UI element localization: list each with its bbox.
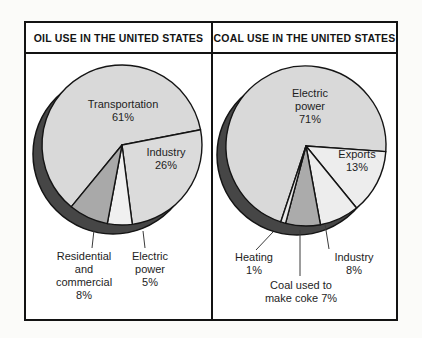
leader-line-heating [256,232,273,250]
coal-panel: Electric power 71% Exports 13% Heating 1… [213,54,396,319]
label-residential: Residential and commercial 8% [56,250,112,302]
panel-title-coal: COAL USE IN THE UNITED STATES [213,23,396,54]
figure-canvas: OIL USE IN THE UNITED STATES COAL USE IN… [0,0,422,338]
label-coke: Coal used to make coke 7% [265,279,337,305]
label-electric-power-71: Electric power 71% [292,87,328,126]
label-transportation: Transportation 61% [88,98,159,124]
label-industry-26: Industry 26% [146,146,185,172]
oil-title-text: OIL USE IN THE UNITED STATES [34,32,204,44]
pie-slice-industry [122,130,202,225]
coal-title-text: COAL USE IN THE UNITED STATES [214,32,396,44]
label-industry-8: Industry 8% [333,251,375,277]
label-exports: Exports 13% [338,148,375,174]
panel-title-oil: OIL USE IN THE UNITED STATES [26,23,213,54]
label-electric-power-5: Electric power 5% [132,250,168,289]
leader-line-electric-power-5 [143,231,145,248]
chart-card: OIL USE IN THE UNITED STATES COAL USE IN… [24,21,398,321]
label-heating: Heating 1% [235,251,273,277]
oil-pie-chart [26,54,213,317]
oil-panel: Transportation 61% Industry 26% Resident… [26,54,213,319]
leader-line-residential [92,230,94,248]
